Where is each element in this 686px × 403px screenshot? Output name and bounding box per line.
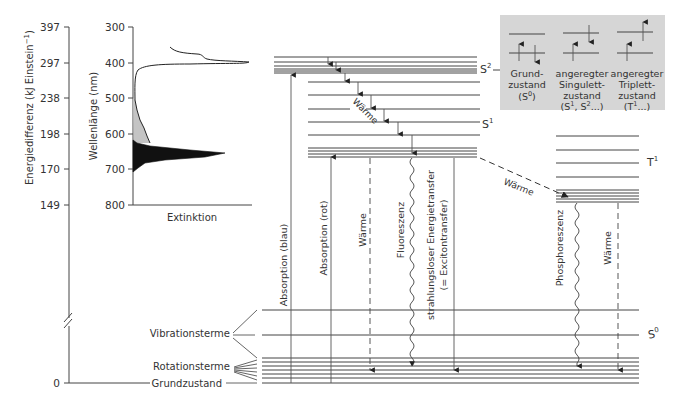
energy-axis-label: Energiedifferenz (kJ Einstein−1) <box>23 30 35 185</box>
s2-level: S2 <box>274 57 505 76</box>
svg-text:Grund-: Grund- <box>511 68 544 79</box>
s1-level: S1 Wärme <box>308 57 493 157</box>
s2-label: S2 <box>480 62 491 76</box>
svg-text:zustand: zustand <box>563 90 601 101</box>
waerme-isc-label: Wärme <box>502 177 536 198</box>
energy-tick: 149 <box>40 199 60 211</box>
svg-text:Singulett-: Singulett- <box>559 79 605 90</box>
energy-tick: 238 <box>40 92 60 104</box>
absorption-spectrum: 300 400 500 600 700 800 Wellenlänge (nm)… <box>88 21 252 223</box>
waerme-label: Wärme <box>357 213 368 247</box>
svg-text:angeregter: angeregter <box>611 68 664 79</box>
wavelength-tick: 600 <box>105 128 125 140</box>
phosphoreszenz-label: Phosphoreszenz <box>554 210 565 287</box>
jablonski-diagram: 397 297 238 198 170 149 0 Energiediffere… <box>0 0 686 403</box>
transitions: Absorption (blau) Absorption (rot) Wärme… <box>278 75 618 383</box>
excitontransfer-label: (= Excitontransfer) <box>438 200 449 291</box>
spin-legend: Grund- zustand (S0) angeregter Singulett… <box>500 15 665 112</box>
s0-level: S0 Vibrationsterme Rotationsterme Grundz… <box>150 310 661 389</box>
wavelength-tick: 500 <box>105 92 125 104</box>
svg-text:angeregter: angeregter <box>556 68 609 79</box>
energy-tick: 0 <box>53 377 60 389</box>
wavelength-tick: 700 <box>105 163 125 175</box>
wavelength-tick: 800 <box>105 199 125 211</box>
extinction-axis-label: Extinktion <box>167 212 217 223</box>
rotationsterme-label: Rotationsterme <box>153 361 230 372</box>
energietransfer-label: strahlungsloser Energietransfer <box>425 170 436 320</box>
energy-tick: 198 <box>40 128 60 140</box>
t1-label: T1 <box>646 155 658 169</box>
svg-text:(S1, S2...): (S1, S2...) <box>561 100 604 112</box>
s0-label: S0 <box>647 326 661 342</box>
absorption-blau-label: Absorption (blau) <box>278 224 289 306</box>
wavelength-tick: 400 <box>105 57 125 69</box>
s1-label: S1 <box>482 117 493 131</box>
grundzustand-label: Grundzustand <box>152 378 222 389</box>
energy-tick: 297 <box>40 57 60 69</box>
svg-text:Triplett-: Triplett- <box>618 79 655 90</box>
svg-text:zustand: zustand <box>508 79 546 90</box>
svg-text:(T1...): (T1...) <box>624 100 650 112</box>
svg-text:(S0): (S0) <box>518 90 536 102</box>
vibrationsterme-label: Vibrationsterme <box>150 328 230 339</box>
absorption-rot-label: Absorption (rot) <box>318 200 329 275</box>
wavelength-axis-label: Wellenlänge (nm) <box>88 72 99 160</box>
energy-tick: 397 <box>40 21 60 33</box>
energy-tick: 170 <box>40 163 60 175</box>
t1-level: T1 Wärme <box>480 136 658 202</box>
waerme-t-label: Wärme <box>602 231 613 265</box>
fluoreszenz-label: Fluoreszenz <box>395 202 406 258</box>
wavelength-tick: 300 <box>105 21 125 33</box>
